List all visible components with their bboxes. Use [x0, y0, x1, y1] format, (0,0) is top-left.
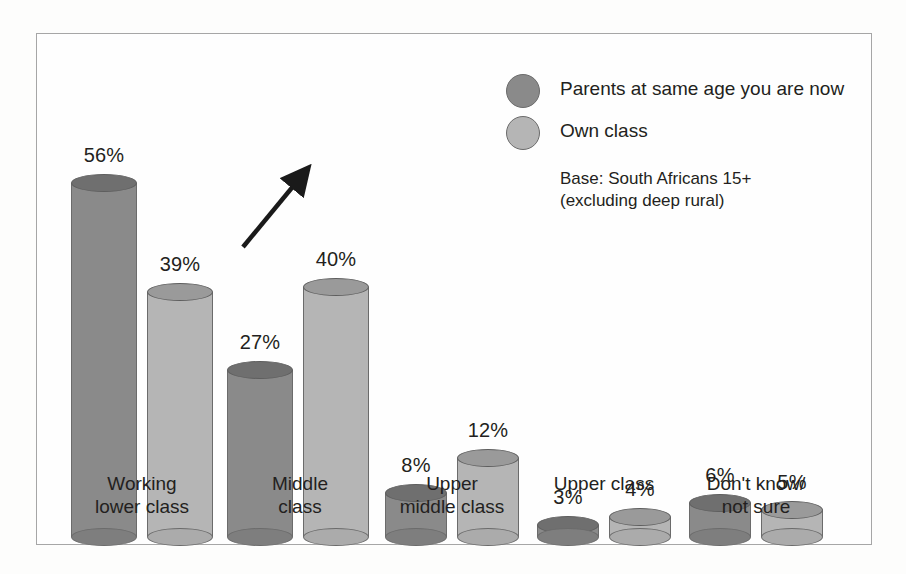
category-label-upper-middle-class: Upper middle class — [367, 472, 537, 518]
category-label-line1: Upper — [367, 472, 537, 495]
base-note-line1: Base: South Africans 15+ — [560, 168, 751, 190]
category-label-dont-know: Don't know/ not sure — [671, 472, 841, 518]
legend-item-parents[interactable]: Parents at same age you are now — [506, 72, 866, 114]
category-label-line2: middle class — [367, 495, 537, 518]
bar-value-label: 12% — [457, 419, 519, 442]
cylinder-top-icon — [609, 508, 671, 526]
legend-label: Parents at same age you are now — [560, 78, 844, 100]
cylinder-top-icon — [71, 174, 137, 192]
category-label-line1: Upper class — [519, 472, 689, 495]
bar-own-class-upper-class[interactable]: 4% — [609, 508, 671, 546]
category-label-line2: class — [215, 495, 385, 518]
legend-swatch-circle-icon — [506, 116, 540, 150]
category-label-line2: lower class — [57, 495, 227, 518]
category-label-line1: Middle — [215, 472, 385, 495]
base-note-line2: (excluding deep rural) — [560, 190, 751, 212]
cylinder-top-icon — [147, 283, 213, 301]
bar-value-label: 56% — [71, 144, 137, 167]
category-label-line1: Working — [57, 472, 227, 495]
legend-swatch-circle-icon — [506, 74, 540, 108]
cylinder-top-icon — [457, 449, 519, 467]
category-label-working-lower-class: Working lower class — [57, 472, 227, 518]
bar-value-label: 39% — [147, 253, 213, 276]
bar-value-label: 40% — [303, 248, 369, 271]
chart-frame: 56% 39% Working lower class 27% 40% Midd… — [36, 33, 872, 545]
bar-parents-middle-class[interactable]: 27% — [227, 361, 293, 546]
legend-label: Own class — [560, 120, 648, 142]
cylinder-top-icon — [303, 278, 369, 296]
base-note: Base: South Africans 15+ (excluding deep… — [560, 168, 751, 212]
bar-value-label: 27% — [227, 331, 293, 354]
category-label-line1: Don't know/ — [671, 472, 841, 495]
cylinder-top-icon — [227, 361, 293, 379]
category-label-upper-class: Upper class — [519, 472, 689, 495]
legend-item-own-class[interactable]: Own class — [506, 114, 866, 156]
category-label-line2: not sure — [671, 495, 841, 518]
bar-parents-upper-class[interactable]: 3% — [537, 516, 599, 546]
category-label-middle-class: Middle class — [215, 472, 385, 518]
chart-legend: Parents at same age you are now Own clas… — [506, 72, 866, 156]
